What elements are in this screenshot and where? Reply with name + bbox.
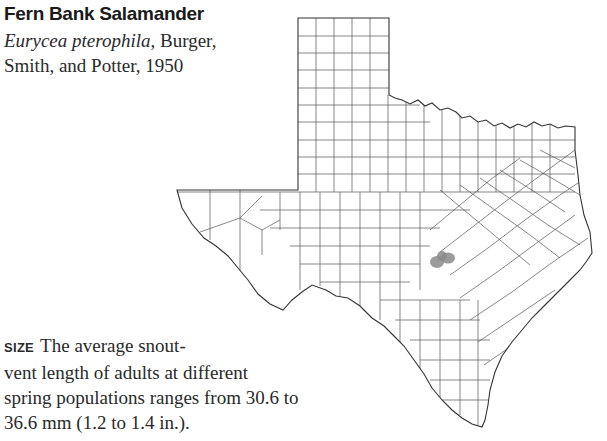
size-line-3: spring populations ranges from 30.6 to	[4, 387, 298, 408]
range-area	[430, 251, 455, 268]
size-line-2: vent length of adults at different	[4, 362, 248, 383]
size-label: SIZE	[4, 340, 34, 355]
size-line-1: The average snout-	[40, 335, 186, 356]
size-line-4: 36.6 mm (1.2 to 1.4 in.).	[4, 412, 190, 433]
size-section: SIZEThe average snout- vent length of ad…	[4, 333, 324, 435]
